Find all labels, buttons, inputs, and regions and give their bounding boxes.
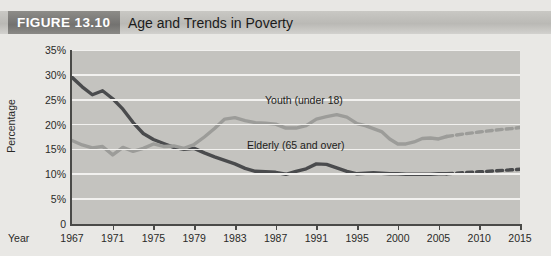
y-axis-tick-label: 35% [45, 44, 66, 56]
y-axis-tick-labels: 05%10%15%20%25%30%35% [26, 34, 66, 256]
figure-banner: FIGURE 13.10 Age and Trends in Poverty [0, 11, 551, 34]
y-axis-tick-label: 25% [45, 94, 66, 106]
y-axis-tick-label: 15% [45, 143, 66, 155]
x-axis-tick [153, 224, 155, 230]
series-label-elderly: Elderly (65 and over) [247, 139, 344, 151]
x-axis-tick [276, 224, 278, 230]
x-axis-tick-label: 1967 [60, 232, 83, 244]
figure-title: Age and Trends in Poverty [128, 11, 293, 34]
series-line-3 [447, 128, 520, 137]
gridline [72, 173, 520, 175]
x-axis-tick-label: 2000 [386, 232, 409, 244]
y-axis-tick-label: 10% [45, 168, 66, 180]
figure-title-label: Age and Trends in Poverty [128, 15, 293, 31]
x-axis-tick [194, 224, 196, 230]
x-axis-tick-label: 1995 [345, 232, 368, 244]
series-line-0 [72, 77, 447, 174]
y-axis-tick-label: 20% [45, 119, 66, 131]
gridline [72, 50, 520, 51]
x-axis-tick [439, 224, 441, 230]
y-axis-title: Percentage [5, 99, 17, 153]
x-axis-tick-label: 2015 [508, 232, 531, 244]
gridline [72, 198, 520, 200]
x-axis-tick [357, 224, 359, 230]
x-axis-tick-label: 1987 [264, 232, 287, 244]
x-axis-tick [398, 224, 400, 230]
x-axis-line [70, 224, 520, 226]
x-axis-tick [479, 224, 481, 230]
x-axis-tick-label: 1979 [182, 232, 205, 244]
x-axis-tick [113, 224, 115, 230]
x-axis-tick-label: 1975 [142, 232, 165, 244]
y-axis-tick-label: 30% [45, 69, 66, 81]
y-axis-line [70, 50, 72, 226]
series-label-youth: Youth (under 18) [265, 94, 343, 106]
x-axis-tick-label: 1991 [305, 232, 328, 244]
figure-number-label: FIGURE 13.10 [17, 15, 110, 30]
x-axis-tick-label: 2005 [427, 232, 450, 244]
plot-inner [72, 50, 520, 224]
figure-number-tab: FIGURE 13.10 [8, 11, 120, 34]
y-axis-tick-label: 0 [60, 218, 66, 230]
y-axis-tick-label: 5% [51, 193, 66, 205]
x-axis-tick-label: 2010 [468, 232, 491, 244]
gridline [72, 74, 520, 76]
gridline [72, 124, 520, 126]
x-axis-tick-label: 1971 [101, 232, 124, 244]
x-axis-tick-label: 1983 [223, 232, 246, 244]
plot-area [72, 50, 520, 224]
x-axis-tick [520, 224, 522, 230]
x-axis-tick [235, 224, 237, 230]
chart-container: Percentage Year 05%10%15%20%25%30%35% 19… [0, 34, 551, 256]
x-axis-tick [316, 224, 318, 230]
